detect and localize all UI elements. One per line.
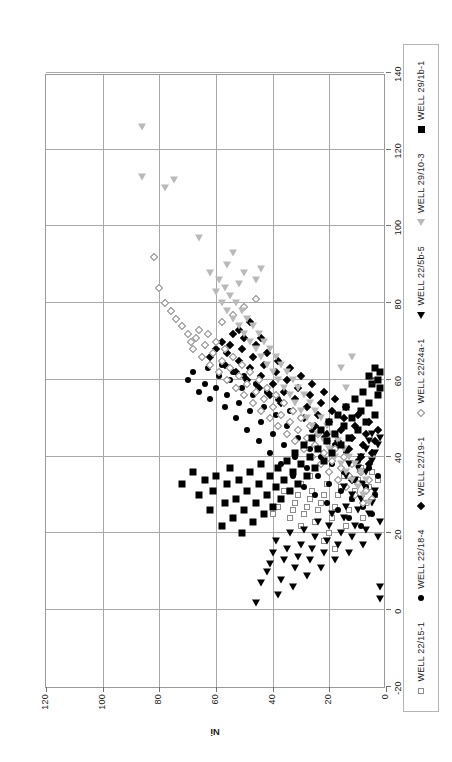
data-point [315, 446, 322, 453]
data-point [232, 495, 239, 502]
legend-item[interactable]: WELL 22/18-4 [416, 529, 426, 603]
data-point [291, 565, 299, 572]
data-point [315, 473, 321, 479]
data-point [229, 250, 237, 257]
data-point [308, 545, 316, 552]
data-point [314, 519, 322, 526]
data-point [166, 307, 174, 315]
x-tick [386, 533, 391, 534]
legend-item[interactable]: WELL 22/24a-1 [416, 339, 426, 418]
data-point [362, 526, 370, 533]
data-point [227, 465, 234, 472]
data-point [317, 426, 324, 433]
data-point [290, 507, 296, 513]
data-point [222, 404, 228, 410]
legend-item-label: WELL 22/24a-1 [416, 339, 426, 404]
data-point [317, 415, 325, 422]
data-point [304, 504, 310, 510]
legend-item[interactable]: WELL 22/19-1 [416, 437, 426, 511]
data-point [300, 526, 308, 533]
data-point [325, 468, 333, 476]
data-point [365, 438, 373, 445]
data-point [215, 277, 223, 284]
data-point [266, 561, 274, 568]
data-point [365, 499, 373, 506]
data-point [295, 492, 301, 498]
plot-area [45, 74, 385, 688]
data-point [161, 185, 169, 192]
data-point [295, 480, 302, 487]
x-tick-label: 40 [393, 453, 403, 463]
data-point [249, 399, 257, 407]
data-point [303, 572, 311, 579]
data-point [224, 480, 231, 487]
data-point [283, 429, 291, 437]
data-point [281, 476, 288, 483]
data-point [357, 469, 365, 476]
data-point [272, 538, 280, 545]
data-point [319, 387, 327, 395]
data-point [244, 488, 251, 495]
x-tick-label: 20 [393, 529, 403, 539]
x-tick [386, 72, 391, 73]
x-tick [386, 456, 391, 457]
data-point [360, 388, 367, 395]
data-point [229, 315, 237, 322]
data-point [349, 415, 356, 422]
x-tick-label: 120 [393, 143, 403, 159]
data-point [255, 480, 262, 487]
data-point [289, 377, 297, 384]
legend-marker-icon [417, 594, 426, 603]
data-point [351, 522, 359, 529]
data-point [201, 476, 208, 483]
data-point [286, 530, 294, 537]
data-point [277, 410, 285, 418]
data-point [240, 330, 248, 337]
data-point [223, 307, 231, 314]
data-point [326, 531, 332, 537]
data-point [267, 450, 273, 456]
data-point [301, 484, 307, 490]
data-point [240, 391, 248, 399]
data-point [326, 419, 333, 426]
data-point [237, 345, 245, 353]
data-point [348, 353, 356, 360]
data-point [301, 511, 307, 517]
gridline-horizontal [329, 75, 330, 687]
data-point [261, 511, 268, 518]
data-point [334, 411, 341, 418]
data-point [275, 504, 281, 510]
x-tick [386, 379, 391, 380]
data-point [343, 523, 349, 529]
gridline-horizontal [159, 75, 160, 687]
data-point [320, 457, 327, 464]
data-point [190, 369, 196, 375]
data-point [230, 515, 237, 522]
data-point [306, 557, 314, 564]
data-point [189, 345, 197, 353]
legend-item[interactable]: WELL 29/10-3 [416, 153, 426, 227]
data-point [269, 549, 277, 556]
data-point [195, 235, 203, 242]
data-point [297, 407, 305, 414]
y-axis-title: Ni [210, 727, 220, 738]
legend-item[interactable]: WELL 29/1b-1 [416, 61, 426, 135]
legend-item-label: WELL 29/10-3 [416, 153, 426, 213]
data-point [376, 519, 384, 526]
data-point [289, 469, 296, 476]
data-point [280, 557, 288, 564]
data-point [342, 469, 350, 476]
legend-item[interactable]: WELL 22/15-1 [416, 622, 426, 696]
gridline-vertical [46, 302, 384, 303]
data-point [257, 580, 265, 587]
data-point [354, 426, 361, 433]
data-point [351, 461, 359, 468]
data-point [320, 549, 328, 556]
data-point [362, 476, 370, 483]
x-tick-label: 0 [393, 609, 403, 614]
data-point [371, 411, 378, 418]
data-point [323, 538, 331, 545]
data-point [292, 449, 299, 456]
legend-item[interactable]: WELL 22/5b-5 [416, 246, 426, 320]
data-point [235, 476, 242, 483]
